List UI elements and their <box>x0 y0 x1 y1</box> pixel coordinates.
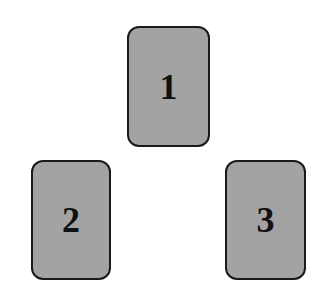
card-2: 2 <box>31 160 111 280</box>
card-3-label: 3 <box>257 199 275 241</box>
card-1: 1 <box>127 26 210 147</box>
card-3: 3 <box>225 160 306 280</box>
card-2-label: 2 <box>62 199 80 241</box>
card-1-label: 1 <box>160 66 178 108</box>
